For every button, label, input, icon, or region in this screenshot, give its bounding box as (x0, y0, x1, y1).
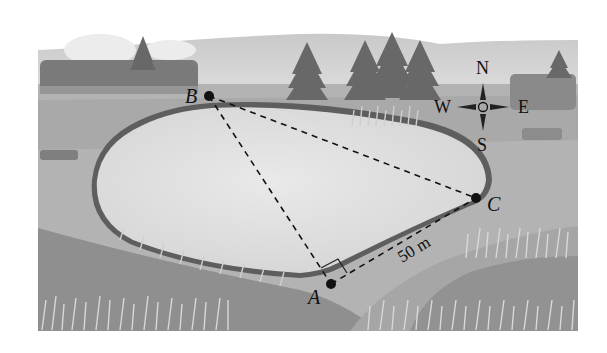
point-C-marker (471, 193, 481, 203)
hedge-small-left (40, 150, 78, 160)
cloud (144, 40, 196, 60)
label-A: A (306, 286, 321, 308)
compass-east-label: E (518, 97, 529, 117)
pond-survey-figure: A B C 50 m N S E W (0, 0, 607, 353)
hedge-left-base (40, 86, 198, 94)
label-C: C (487, 193, 501, 215)
compass-south-label: S (477, 135, 487, 155)
point-A-marker (326, 279, 336, 289)
hedge-small-right (522, 128, 562, 140)
compass-north-label: N (476, 58, 489, 78)
label-B: B (185, 85, 197, 107)
point-B-marker (204, 91, 214, 101)
compass-west-label: W (434, 97, 451, 117)
